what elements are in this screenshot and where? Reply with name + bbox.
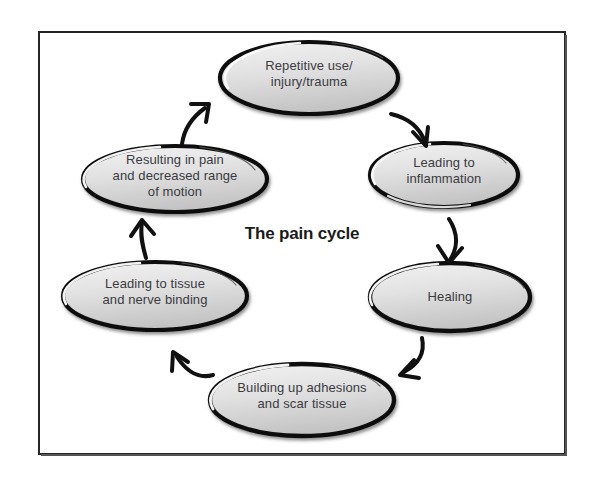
diagram-title: The pain cycle [197, 224, 407, 244]
arrow-inflammation-to-healing [438, 219, 462, 263]
node-resulting-in-pain[interactable] [83, 146, 267, 212]
node-leading-to-inflammation[interactable] [370, 143, 518, 207]
node-repetitive-use[interactable] [220, 42, 398, 114]
node-healing[interactable] [370, 263, 530, 331]
node-building-up-adhesions[interactable] [210, 364, 394, 436]
pain-cycle-diagram: Repetitive use/ injury/trauma Leading to… [0, 0, 594, 484]
arrow-pain-to-repetitive [182, 104, 209, 144]
arrow-adhesions-to-tissue [172, 352, 213, 376]
arrow-repetitive-to-inflammation [391, 114, 428, 146]
arrow-tissue-to-pain [131, 220, 154, 258]
arrow-healing-to-adhesions [400, 338, 423, 378]
node-ellipse [220, 42, 398, 114]
node-leading-to-tissue[interactable] [63, 262, 247, 330]
